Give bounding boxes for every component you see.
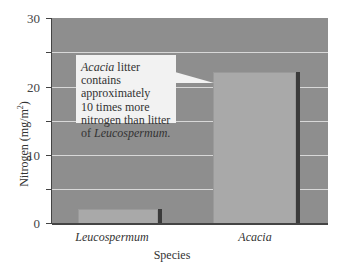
annotation-callout: Acacia litter contains approximately 10 … [76,55,176,123]
